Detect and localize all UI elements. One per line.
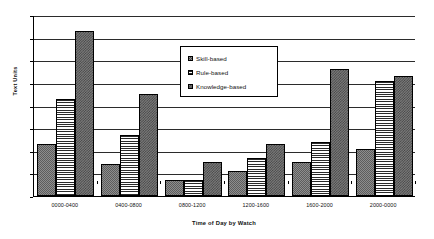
y-tick-mark [30, 84, 33, 85]
bar [37, 144, 56, 196]
y-tick-mark [30, 107, 33, 108]
y-tick-mark [30, 61, 33, 62]
x-tick-mark [415, 181, 416, 184]
x-tick-mark [33, 181, 34, 184]
legend-swatch-icon [188, 84, 193, 89]
legend-label: Skill-based [196, 55, 227, 62]
bar-chart: Text Units 01020304050607080 0000-040004… [0, 0, 434, 239]
bar [75, 31, 94, 196]
bar-group [289, 16, 353, 196]
legend-swatch-icon [188, 56, 193, 61]
x-axis-title: Time of Day by Watch [33, 220, 415, 226]
x-tick-mark [224, 181, 225, 184]
chart-legend: Skill-basedRule-basedKnowledge-based [180, 46, 278, 97]
y-tick-mark [30, 197, 33, 198]
bar-group [98, 16, 162, 196]
y-tick-mark [30, 129, 33, 130]
bar [266, 144, 285, 196]
legend-item[interactable]: Skill-based [188, 51, 277, 65]
bar [375, 81, 394, 196]
bar [311, 142, 330, 196]
legend-item[interactable]: Rule-based [188, 65, 277, 79]
bar [228, 171, 247, 196]
legend-label: Rule-based [196, 69, 228, 76]
y-tick-mark [30, 152, 33, 153]
x-tick-label: 0400-0800 [115, 202, 142, 208]
bar [120, 135, 139, 196]
x-tick-label: 0000-0400 [51, 202, 78, 208]
bar [203, 162, 222, 196]
bars-layer [34, 16, 415, 196]
bar [330, 69, 349, 196]
bar [356, 149, 375, 197]
x-tick-mark [288, 181, 289, 184]
y-tick-mark [30, 174, 33, 175]
legend-item[interactable]: Knowledge-based [188, 79, 277, 93]
bar-group [352, 16, 416, 196]
plot-area [33, 16, 415, 197]
x-tick-label: 1600-2000 [306, 202, 333, 208]
bar [394, 76, 413, 196]
bar [247, 158, 266, 196]
bar [101, 164, 120, 196]
bar [292, 162, 311, 196]
x-tick-label: 0800-1200 [179, 202, 206, 208]
x-tick-mark [160, 181, 161, 184]
bar [139, 94, 158, 196]
bar-group [34, 16, 98, 196]
bar-group [161, 16, 225, 196]
x-tick-mark [97, 181, 98, 184]
bar-group [225, 16, 289, 196]
legend-label: Knowledge-based [196, 83, 246, 90]
x-tick-mark [351, 181, 352, 184]
x-tick-label: 1200-1600 [242, 202, 269, 208]
x-tick-label: 2000-0000 [370, 202, 397, 208]
y-tick-mark [30, 39, 33, 40]
bar [56, 99, 75, 196]
y-tick-mark [30, 16, 33, 17]
legend-swatch-icon [188, 70, 193, 75]
bar [184, 180, 203, 196]
bar [165, 180, 184, 196]
y-axis-title: Text Units [12, 46, 18, 116]
